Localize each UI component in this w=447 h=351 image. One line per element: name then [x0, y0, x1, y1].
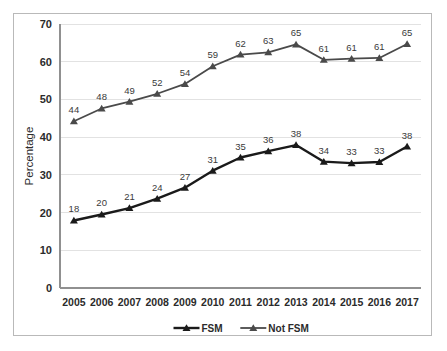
data-point-label: 65	[402, 27, 413, 38]
y-axis-tick-label: 40	[40, 131, 52, 143]
x-axis-tick-label: 2005	[62, 296, 86, 308]
x-axis-tick-label: 2010	[201, 296, 225, 308]
line-chart: 010203040506070Percentage200520062007200…	[14, 14, 431, 335]
x-axis-tick-label: 2016	[368, 296, 392, 308]
data-point-marker	[292, 41, 300, 48]
y-axis-tick-label: 20	[40, 207, 52, 219]
data-point-label: 44	[69, 104, 80, 115]
series-not-fsm: 44484952545962636561616165	[69, 27, 413, 124]
data-point-label: 61	[319, 43, 330, 54]
y-axis-tick-label: 10	[40, 244, 52, 256]
series-fsm: 18202124273135363834333338	[69, 128, 413, 223]
data-point-label: 27	[180, 171, 191, 182]
chart-legend: FSMNot FSM	[174, 323, 309, 334]
y-axis-title: Percentage	[23, 127, 35, 186]
x-axis-tick-label: 2011	[229, 296, 252, 308]
data-point-label: 63	[263, 35, 274, 46]
data-point-label: 31	[207, 154, 218, 165]
data-point-label: 61	[346, 42, 357, 53]
y-axis-tick-label: 50	[40, 93, 52, 105]
data-point-label: 38	[291, 128, 302, 139]
data-point-label: 52	[152, 77, 163, 88]
data-point-label: 61	[374, 41, 385, 52]
x-axis-tick-label: 2013	[284, 296, 308, 308]
legend-item-label: Not FSM	[268, 323, 309, 334]
x-axis-tick-label: 2007	[118, 296, 142, 308]
y-axis-tick-label: 0	[46, 282, 52, 294]
x-axis-tick-label: 2015	[340, 296, 364, 308]
data-point-label: 21	[124, 191, 135, 202]
data-point-label: 35	[235, 141, 246, 152]
x-axis-tick-label: 2006	[90, 296, 114, 308]
data-point-label: 38	[402, 130, 413, 141]
x-axis-tick-label: 2008	[146, 296, 170, 308]
data-point-label: 24	[152, 182, 163, 193]
data-point-label: 33	[346, 146, 357, 157]
legend-item-label: FSM	[202, 323, 223, 334]
data-point-marker	[403, 143, 411, 150]
data-point-label: 59	[207, 49, 218, 60]
x-axis-tick-label: 2014	[312, 296, 336, 308]
data-point-label: 18	[69, 203, 80, 214]
data-point-label: 49	[124, 85, 135, 96]
y-axis-tick-label: 70	[40, 18, 52, 30]
data-point-marker	[403, 40, 411, 47]
data-point-label: 62	[235, 38, 246, 49]
x-axis-tick-label: 2017	[395, 296, 419, 308]
x-axis-tick-label: 2012	[257, 296, 281, 308]
data-point-label: 48	[96, 91, 107, 102]
y-axis-tick-label: 60	[40, 56, 52, 68]
data-point-label: 36	[263, 134, 274, 145]
data-point-label: 34	[319, 145, 330, 156]
data-point-label: 20	[96, 197, 107, 208]
data-point-label: 33	[374, 145, 385, 156]
chart-frame: 010203040506070Percentage200520062007200…	[13, 13, 432, 336]
x-axis-tick-label: 2009	[173, 296, 197, 308]
y-axis-tick-label: 30	[40, 169, 52, 181]
data-point-label: 65	[291, 27, 302, 38]
data-point-label: 54	[180, 67, 191, 78]
